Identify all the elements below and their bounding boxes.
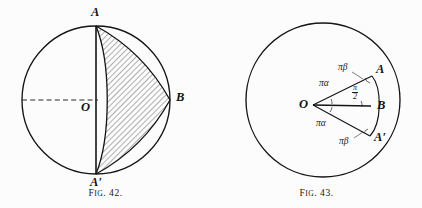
figure-42-label-A-prime: A′ <box>90 176 102 189</box>
figure-43-label-pi-alpha-top: πα <box>319 79 329 89</box>
figure-43-angle-tick-alpha-bottom <box>330 107 332 112</box>
figure-43-label-pi-beta-top: πβ <box>338 63 348 73</box>
figure-42-label-A: A <box>91 6 100 19</box>
figure-43-leader-beta-bottom <box>354 132 363 138</box>
figure-42-drawing <box>0 0 211 208</box>
figure-43-label-A-prime: A′ <box>374 131 386 144</box>
figure-42-label-B: B <box>176 91 185 104</box>
figure-42-caption-number: . 42. <box>103 188 122 198</box>
figure-43: A A′ B O πβ πα πα πβ π 2 FIG. 43. <box>211 0 422 208</box>
figure-42-label-O: O <box>81 101 90 114</box>
figure-plate: A A′ B O FIG. 42. <box>0 0 422 208</box>
figure-43-caption-number: . 43. <box>314 188 333 198</box>
figure-43-angle-tick-alpha-top <box>331 99 332 104</box>
figure-43-caption: FIG. 43. <box>211 188 422 198</box>
figure-43-caption-smallcaps: IG <box>305 189 314 198</box>
figure-43-label-B: B <box>377 99 386 112</box>
figure-42-caption-smallcaps: IG <box>94 189 103 198</box>
figure-42-caption: FIG. 42. <box>0 188 211 198</box>
figure-43-leader-beta-top <box>352 72 363 79</box>
figure-43-pi-over-two-denominator: 2 <box>352 93 358 101</box>
figure-43-drawing <box>211 0 422 208</box>
figure-43-label-pi-alpha-bottom: πα <box>316 119 326 129</box>
figure-43-label-O: O <box>299 98 308 111</box>
figure-43-label-A: A <box>376 63 385 76</box>
figure-42: A A′ B O FIG. 42. <box>0 0 211 208</box>
figure-43-label-pi-over-two: π 2 <box>352 84 358 101</box>
figure-43-angle-tick-beta-bottom <box>364 129 368 133</box>
figure-43-label-pi-beta-bottom: πβ <box>339 137 349 147</box>
